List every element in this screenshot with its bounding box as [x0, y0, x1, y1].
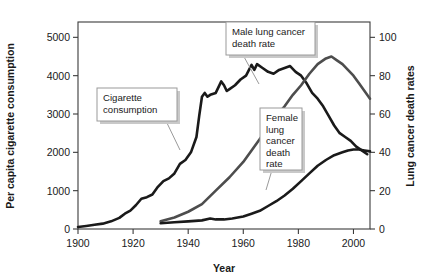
callout-label-line: Cigarette	[103, 92, 142, 103]
y-axis-right-title: Lung cancer death rates	[404, 65, 416, 187]
y-axis-left-tick-label: 5000	[47, 31, 71, 43]
callout-label-line: cancer	[266, 135, 296, 146]
callout-label-line: lung	[266, 124, 284, 135]
y-axis-right-tick-label: 0	[379, 223, 385, 235]
x-axis-tick-label: 1900	[66, 237, 90, 249]
x-axis-tick-label: 1980	[287, 237, 311, 249]
y-axis-right-tick-label: 80	[379, 70, 391, 82]
y-axis-left-tick-label: 3000	[47, 108, 71, 120]
x-axis-tick-label: 1960	[232, 237, 256, 249]
callout-label-line: consumption	[103, 104, 157, 115]
y-axis-right-tick-label: 60	[379, 108, 391, 120]
y-axis-right-tick-label: 100	[379, 31, 397, 43]
y-axis-left-title: Per capita cigarette consumption	[4, 43, 16, 209]
y-axis-right-tick-label: 20	[379, 185, 391, 197]
y-axis-right-tick-label: 40	[379, 146, 391, 158]
y-axis-left-tick-label: 2000	[47, 146, 71, 158]
x-axis-tick-label: 1940	[177, 237, 201, 249]
y-axis-left-tick-label: 4000	[47, 70, 71, 82]
y-axis-left-tick-label: 0	[64, 223, 70, 235]
callout-label-line: death rate	[232, 38, 275, 49]
callout-label-line: Female	[266, 112, 298, 123]
callout-label-line: Male lung cancer	[232, 26, 306, 37]
callout-label-line: death	[266, 147, 290, 158]
callout-label-line: rate	[266, 158, 283, 169]
y-axis-left-tick-label: 1000	[47, 185, 71, 197]
x-axis-tick-label: 2000	[342, 237, 366, 249]
x-axis-title: Year	[213, 262, 235, 274]
x-axis-tick-label: 1920	[121, 237, 145, 249]
chart-figure: 010002000300040005000 020406080100 19001…	[0, 0, 425, 279]
